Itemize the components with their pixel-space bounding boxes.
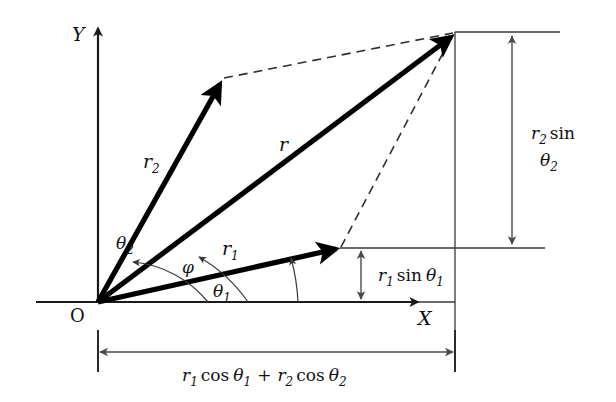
dashed-side-from-r2-tip — [224, 33, 453, 78]
construction-lines — [98, 32, 560, 372]
r2-vector-label: r2 — [143, 150, 160, 176]
x-axis-label: X — [416, 307, 433, 329]
parallelogram-dashed-sides — [224, 33, 453, 247]
origin-label: O — [70, 305, 85, 326]
r1-sin-theta1-label: r1sinθ1 — [378, 265, 444, 289]
r1-vector-label: r1 — [222, 237, 239, 263]
resultant-vector-label: r — [279, 133, 290, 155]
dimension-lines — [100, 36, 512, 352]
r2-sin-theta2-label-arg: θ2 — [540, 150, 558, 174]
diagram-canvas: Y X O r2 r r1 θ2 φ — [0, 0, 616, 402]
text-labels: Y X O r2 r r1 θ2 φ — [70, 23, 575, 389]
dashed-side-from-r1-tip — [341, 34, 453, 247]
r2-sin-theta2-label: r2sin — [531, 123, 575, 147]
vector-diagram-figure: Y X O r2 r r1 θ2 φ — [0, 0, 616, 402]
y-axis-label: Y — [72, 23, 87, 45]
horizontal-sum-label: r1cosθ1+r2cosθ2 — [182, 365, 347, 389]
theta1-arc — [291, 258, 298, 302]
phi-angle-label: φ — [182, 257, 194, 277]
r2-vector — [98, 84, 220, 302]
